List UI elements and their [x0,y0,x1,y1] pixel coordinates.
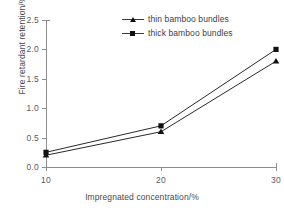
data-point-square-marker [43,150,48,155]
y-tick-label: 2.5 [27,15,39,25]
y-tick-label: 2.0 [27,44,39,54]
x-tick-mark [276,167,277,171]
y-tick-label: 0.5 [27,133,39,143]
series-paths [46,49,276,155]
series-markers [43,47,280,158]
y-tick-label: 0.0 [27,162,39,172]
legend-marker-square-icon [122,29,144,38]
series-line [46,49,276,152]
y-tick-label: 1.5 [27,74,39,84]
legend-label: thick bamboo bundles [148,28,233,38]
data-point-triangle-marker [273,58,280,63]
x-tick-mark [46,167,47,171]
data-point-square-marker [158,123,163,128]
data-point-square-marker [273,47,278,52]
line-chart: 2.5 2.0 1.5 1.0 0.5 0.0 10 20 30 [0,0,284,213]
x-tick-label: 20 [156,175,166,185]
x-tick-mark [161,167,162,171]
legend-item-thick-bamboo-bundles[interactable]: thick bamboo bundles [122,28,233,38]
series-line [46,61,276,155]
x-axis-title: Impregnated concentration/% [0,192,284,202]
series-layer [46,20,276,167]
x-tick-label: 10 [41,175,51,185]
y-tick-label: 1.0 [27,103,39,113]
data-point-triangle-marker [158,129,165,134]
legend-label: thin bamboo bundles [148,14,229,24]
y-axis-title: Fire retardant retention/% [17,0,27,115]
legend: thin bamboo bundles thick bamboo bundles [122,14,233,38]
plot-area: 2.5 2.0 1.5 1.0 0.5 0.0 10 20 30 [46,20,276,167]
legend-item-thin-bamboo-bundles[interactable]: thin bamboo bundles [122,14,233,24]
x-tick-label: 30 [271,175,281,185]
legend-marker-triangle-icon [122,15,144,24]
